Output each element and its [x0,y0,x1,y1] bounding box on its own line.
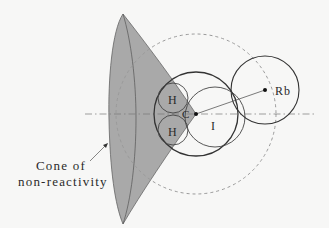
carbon-center-dot [194,112,198,116]
cone-pointer-arrow [90,143,108,161]
reaction-diagram: H H C I Rb Cone of non-reactivity [0,0,329,228]
label-rubidium: Rb [275,84,291,98]
approach-line [196,90,265,114]
label-iodine: I [211,119,215,133]
rubidium-center-dot [263,88,267,92]
label-cone-line1: Cone of [36,158,86,173]
label-carbon: C [182,108,189,120]
label-hydrogen-top: H [168,93,177,107]
label-hydrogen-bottom: H [168,125,177,139]
label-cone-line2: non-reactivity [18,174,108,189]
